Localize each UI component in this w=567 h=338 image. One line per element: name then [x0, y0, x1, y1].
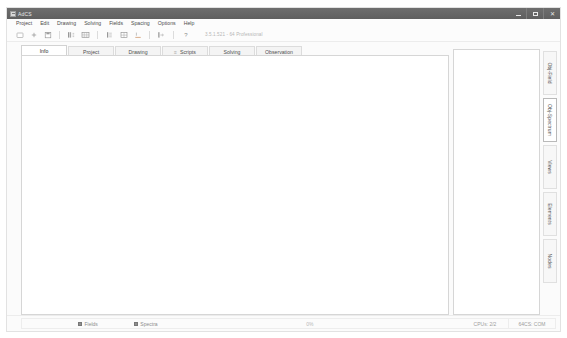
status-toggles-group: Fields Spectra	[21, 318, 250, 329]
tab-project-label: Project	[83, 49, 99, 55]
vtab-obj-spectrum[interactable]: Obj-Spectrum	[543, 98, 557, 142]
progress-percent-label: 0%	[306, 321, 313, 327]
vtab-obj-spectrum-label: Obj-Spectrum	[547, 104, 553, 136]
svg-text:?: ?	[184, 32, 188, 38]
rays-icon	[106, 31, 114, 39]
main-drawing-canvas[interactable]	[21, 55, 449, 315]
grid-view-button[interactable]	[81, 30, 90, 39]
mode-status-label: 64CS: COM	[519, 321, 546, 327]
menu-item-solving[interactable]: Solving	[83, 19, 102, 28]
maximize-button[interactable]	[526, 8, 543, 19]
progress-indicator: 0%	[250, 318, 370, 329]
minimize-button[interactable]	[510, 8, 526, 19]
minimize-icon	[516, 15, 521, 16]
window-controls: ✕	[510, 8, 560, 19]
fields-checkbox-icon[interactable]	[78, 322, 82, 326]
add-item-button[interactable]	[29, 30, 38, 39]
menu-item-spacing[interactable]: Spacing	[130, 19, 151, 28]
window-app-icon	[10, 11, 16, 17]
title-bar-left: AdCS	[7, 11, 32, 17]
title-bar: AdCS ✕	[7, 8, 560, 19]
toolbar-separator	[173, 31, 174, 39]
question-mark-icon: ?	[182, 31, 190, 39]
table-icon	[120, 31, 128, 39]
vtab-elements-label: Elements	[547, 203, 553, 225]
scripts-list-icon: ≡	[174, 49, 177, 55]
bar-chart-button[interactable]	[67, 30, 76, 39]
menu-item-options[interactable]: Options	[157, 19, 177, 28]
spectra-toggle[interactable]: Spectra	[134, 321, 158, 327]
cpu-status: CPUs: 2/2	[462, 318, 509, 329]
vtab-views[interactable]: Views	[543, 145, 557, 189]
help-button[interactable]: ?	[181, 30, 190, 39]
document-icon	[16, 31, 24, 39]
run-solve-button[interactable]	[157, 30, 166, 39]
right-panel-content[interactable]	[453, 49, 540, 315]
maximize-icon	[533, 12, 538, 16]
vtab-nodes[interactable]: Nodes	[543, 239, 557, 283]
vertical-tab-strip: Obj-Field Obj-Spectrum Views Elements No…	[543, 47, 557, 315]
save-button[interactable]	[43, 30, 52, 39]
vtab-obj-field[interactable]: Obj-Field	[543, 51, 557, 95]
toolbar: ? 3.5.1.521 - 64 Professional	[7, 28, 560, 42]
cpu-status-label: CPUs: 2/2	[474, 321, 497, 327]
vtab-elements[interactable]: Elements	[543, 192, 557, 236]
underline-tool-button[interactable]	[133, 30, 142, 39]
grid-icon	[81, 31, 90, 39]
bar-chart-icon	[67, 31, 76, 39]
close-button[interactable]: ✕	[543, 8, 560, 19]
window-title: AdCS	[18, 11, 32, 17]
save-icon	[44, 31, 52, 39]
new-document-button[interactable]	[15, 30, 24, 39]
toolbar-separator	[149, 31, 150, 39]
tab-info-label: Info	[40, 48, 49, 54]
fields-toggle-label: Fields	[85, 321, 98, 327]
run-icon	[157, 31, 166, 39]
left-pane: Info Project Drawing ≡ Scripts Solving O…	[9, 45, 453, 315]
version-label: 3.5.1.521 - 64 Professional	[205, 32, 263, 37]
menu-bar: Project Edit Drawing Solving Fields Spac…	[7, 19, 560, 28]
table-button[interactable]	[119, 30, 128, 39]
underline-icon	[134, 31, 142, 39]
menu-item-project[interactable]: Project	[15, 19, 33, 28]
close-icon: ✕	[550, 11, 555, 17]
vtab-obj-field-label: Obj-Field	[547, 62, 553, 83]
plus-icon	[30, 31, 38, 39]
application-window: AdCS ✕ Project Edit Drawing Solving Fiel…	[6, 7, 561, 332]
menu-item-edit[interactable]: Edit	[39, 19, 50, 28]
vtab-views-label: Views	[547, 160, 553, 174]
spectra-toggle-label: Spectra	[140, 321, 157, 327]
right-pane: Obj-Field Obj-Spectrum Views Elements No…	[453, 45, 558, 315]
toolbar-separator	[59, 31, 60, 39]
status-bar: Fields Spectra 0% CPUs: 2/2 64CS: COM	[7, 315, 560, 331]
menu-item-help[interactable]: Help	[183, 19, 196, 28]
tab-solving-label: Solving	[223, 49, 240, 55]
vtab-nodes-label: Nodes	[547, 254, 553, 269]
tab-observation-label: Observation	[265, 49, 293, 55]
status-filler	[370, 318, 462, 329]
toolbar-separator	[97, 31, 98, 39]
menu-item-drawing[interactable]: Drawing	[56, 19, 77, 28]
spectra-checkbox-icon[interactable]	[134, 322, 138, 326]
rays-button[interactable]	[105, 30, 114, 39]
mode-status: 64CS: COM	[509, 318, 556, 329]
workspace: Info Project Drawing ≡ Scripts Solving O…	[7, 42, 560, 315]
tab-drawing-label: Drawing	[128, 49, 147, 55]
menu-item-fields[interactable]: Fields	[108, 19, 124, 28]
fields-toggle[interactable]: Fields	[78, 321, 98, 327]
tab-scripts-label: Scripts	[180, 49, 196, 55]
